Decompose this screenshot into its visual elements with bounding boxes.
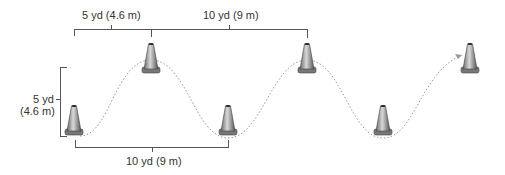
weave-path (80, 55, 462, 138)
label-top-right: 10 yd (9 m) (203, 9, 259, 22)
left-dimension-bracket (56, 67, 67, 137)
cone-icon (65, 105, 83, 135)
cone-icon (219, 105, 237, 135)
bottom-dimension-bracket (75, 140, 229, 152)
top-dimension-bracket (74, 25, 308, 38)
arrow-head-icon (455, 54, 462, 59)
cone-icon (298, 43, 316, 73)
cone-icon (142, 43, 160, 73)
label-top-left: 5 yd (4.6 m) (82, 9, 141, 22)
diagram-graphics (0, 0, 505, 175)
cone-icon (461, 43, 479, 73)
cone-icon (374, 105, 392, 135)
label-left-line2: (4.6 m) (20, 105, 55, 118)
label-bottom: 10 yd (9 m) (126, 155, 182, 168)
cone-drill-diagram: 5 yd (4.6 m) 10 yd (9 m) 5 yd (4.6 m) 10… (0, 0, 505, 175)
